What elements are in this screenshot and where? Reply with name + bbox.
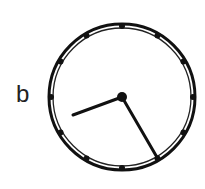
hour-hand (73, 97, 122, 115)
center-pivot (117, 92, 127, 102)
minute-hand (122, 97, 158, 159)
analog-clock (0, 0, 205, 189)
